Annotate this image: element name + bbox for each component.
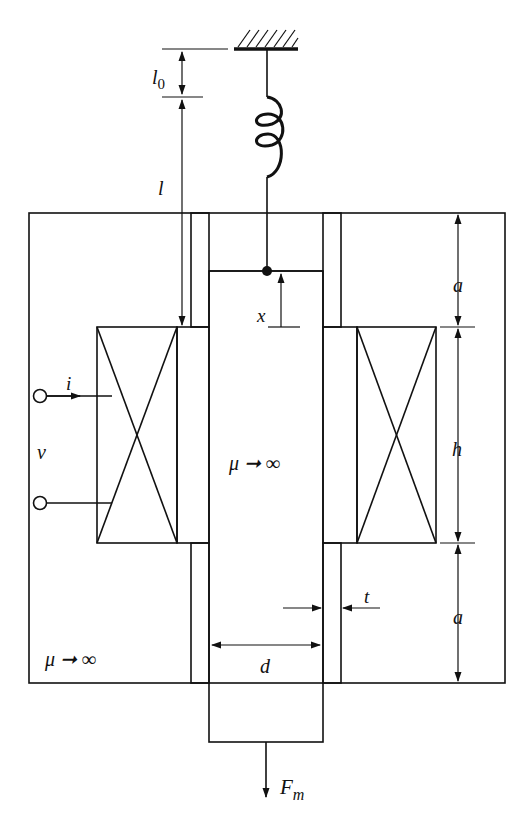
label-d: d (260, 655, 271, 677)
label-a-top: a (453, 274, 463, 296)
dimension-l0-l (162, 49, 228, 325)
label-x: x (256, 305, 266, 326)
dimension-x (268, 274, 300, 327)
label-l0: l0 (152, 66, 165, 92)
label-a-bottom: a (453, 606, 463, 628)
spring (256, 49, 282, 276)
ground-support (234, 30, 298, 49)
outer-core (29, 213, 505, 683)
terminal-top (34, 390, 47, 403)
label-mu-plunger: μ ➞ ∞ (228, 452, 280, 475)
left-gap (177, 327, 209, 543)
terminal-bottom (34, 497, 47, 510)
right-gap (323, 327, 357, 543)
label-h: h (452, 438, 462, 460)
coil-left (97, 327, 177, 543)
solenoid-diagram: l0 l x a h a i v μ ➞ ∞ μ ➞ ∞ d t Fm (0, 0, 530, 825)
label-mu-core: μ ➞ ∞ (44, 648, 96, 671)
non-magnetic-sleeve (191, 213, 341, 683)
label-v: v (37, 441, 46, 463)
label-fm: Fm (279, 775, 304, 803)
label-l: l (158, 177, 164, 199)
label-t: t (364, 586, 370, 607)
label-i: i (66, 373, 71, 394)
coil-right (357, 327, 436, 543)
